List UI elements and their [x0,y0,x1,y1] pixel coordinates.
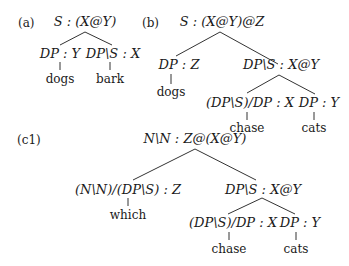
tree-node: DP\S : X@Y [243,58,319,72]
tree-node: DP : Z [159,58,200,72]
tree-node: (N\N)/(DP\S) : Z [75,183,181,197]
panel-tag: (b) [142,16,159,30]
panel-tag: (a) [18,16,35,30]
tree-node: DP\S : X@Y [225,183,301,197]
leaf-word: bark [96,72,124,86]
leaf-word: cats [284,242,309,256]
root-node: N\N : Z@(X@Y) [144,132,247,146]
leaf-word: chase [212,242,247,256]
leaf-word: dogs [46,72,75,86]
leaf-word: dogs [157,85,186,99]
tree-node: DP\S : X [86,47,140,61]
panel-tag: (c1) [17,133,41,147]
leaf-word: which [110,208,146,222]
tree-node: DP : Y [280,216,320,230]
tree-node: DP : Y [299,96,339,110]
tree-node: (DP\S)/DP : X [206,96,294,110]
leaf-word: cats [302,121,327,135]
tree-node: (DP\S)/DP : X [189,216,277,230]
root-node: S : (X@Y) [54,15,117,29]
tree-node: DP : Y [40,47,80,61]
figure-canvas: (a) S : (X@Y) DP : Y DP\S : X dogs bark … [0,0,349,266]
root-node: S : (X@Y)@Z [180,15,265,29]
